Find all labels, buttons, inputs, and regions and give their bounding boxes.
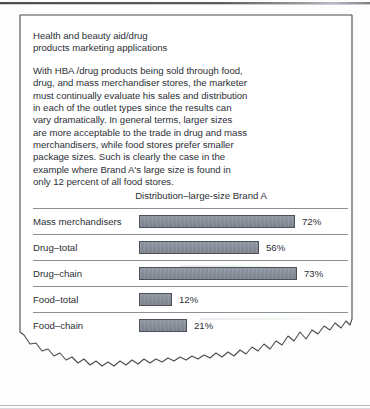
- bar-fill: [139, 215, 295, 228]
- bar-label: Drug–total: [33, 242, 139, 253]
- table-row: Food–chain 21%: [33, 313, 348, 338]
- bar-value-label: 21%: [194, 320, 213, 331]
- bar-label: Drug–chain: [33, 268, 139, 279]
- bar-fill: [139, 267, 297, 280]
- table-row: Drug–total 56%: [33, 235, 348, 260]
- bar-label: Mass merchandisers: [33, 216, 139, 227]
- table-row: Food–total 12%: [33, 287, 348, 312]
- bar-track: 21%: [139, 313, 348, 338]
- table-row: Drug–chain 73%: [33, 261, 348, 286]
- bar-chart: Mass merchandisers 72% Drug–total 56%: [33, 208, 348, 338]
- bar-fill: [139, 241, 259, 254]
- bar-track: 56%: [139, 235, 348, 260]
- bar-value-label: 73%: [304, 268, 323, 279]
- bar-track: 73%: [139, 261, 348, 286]
- page-top-rule-shadow: [0, 4, 370, 5]
- bar-value-label: 56%: [266, 242, 285, 253]
- table-row: Mass merchandisers 72%: [33, 209, 348, 234]
- chart-title: Distribution–large-size Brand A: [19, 190, 353, 201]
- bar-track: 12%: [139, 287, 348, 312]
- page-title: Health and beauty aid/drug products mark…: [33, 30, 333, 55]
- torn-paper-card: Health and beauty aid/drug products mark…: [19, 14, 353, 376]
- bar-fill: [139, 293, 172, 306]
- body-paragraph: With HBA /drug products being sold throu…: [33, 65, 335, 188]
- bar-label: Food–chain: [33, 320, 139, 331]
- page-bottom-rule: [0, 405, 370, 406]
- bar-label: Food–total: [33, 294, 139, 305]
- bar-fill: [139, 319, 187, 332]
- bar-track: 72%: [139, 209, 348, 234]
- scanned-page: Health and beauty aid/drug products mark…: [0, 0, 370, 409]
- bar-value-label: 72%: [302, 216, 321, 227]
- bar-value-label: 12%: [179, 294, 198, 305]
